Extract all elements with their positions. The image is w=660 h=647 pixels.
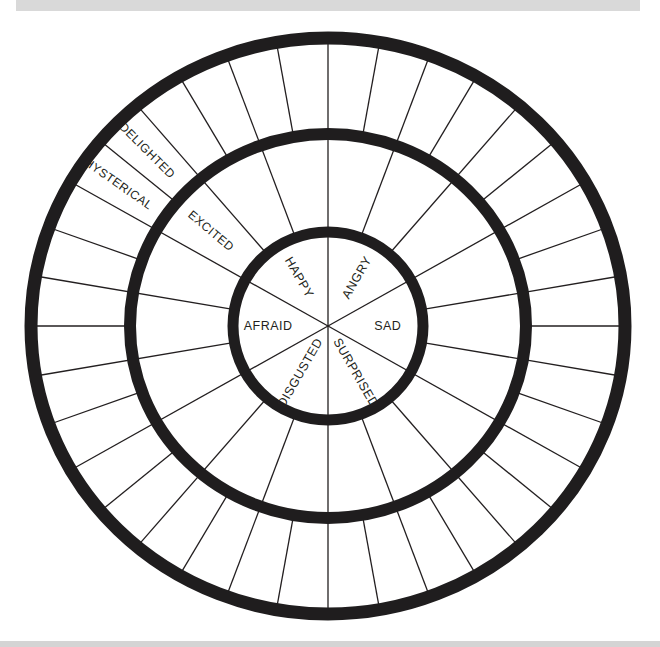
outer-spoke-line [514, 228, 607, 261]
outer-spoke-line [49, 228, 142, 261]
outer-spoke-line [362, 515, 379, 610]
outer-spoke-line [480, 141, 556, 203]
bottom-cropped-bar [0, 641, 660, 647]
outer-spoke-line [362, 42, 379, 136]
core-emotion-label-angry: ANGRY [339, 254, 375, 302]
outer-spoke-line [49, 392, 142, 425]
middle-emotion-label-excited: EXCITED [185, 208, 237, 254]
core-emotion-label-disgusted: DISGUSTED [275, 336, 326, 410]
emotion-wheel: ANGRYSADSURPRISEDDISGUSTEDAFRAIDHAPPYEXC… [0, 0, 660, 647]
outer-emotion-label-delighted: DELIGHTED [116, 120, 178, 182]
core-emotion-label-surprised: SURPRISED [330, 336, 381, 410]
core-emotion-label-afraid: AFRAID [244, 319, 293, 333]
outer-spoke-line [101, 449, 177, 511]
outer-spoke-line [427, 492, 477, 575]
core-emotion-label-happy: HAPPY [282, 255, 317, 301]
outer-emotion-label-hysterical: HYSTERICAL [82, 155, 156, 213]
outer-spoke-line [180, 492, 230, 575]
core-emotion-label-sad: SAD [374, 319, 401, 333]
outer-spoke-line [514, 392, 607, 425]
outer-spoke-line [276, 515, 293, 610]
outer-spoke-line [276, 42, 293, 136]
outer-spoke-line [180, 77, 230, 160]
outer-spoke-line [427, 77, 477, 160]
outer-spoke-line [480, 449, 556, 511]
